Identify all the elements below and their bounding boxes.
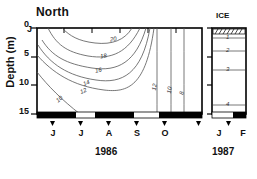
main-panel-frame (37, 28, 202, 114)
month-label-jan: J (212, 128, 226, 138)
contour-label-ice-1: 1 (226, 34, 229, 40)
depth-tick-label-15: 15 (13, 106, 29, 116)
month-label-jun: J (46, 128, 60, 138)
contour-label-ice-4: 4 (226, 101, 229, 107)
year-label-1987: 1987 (212, 146, 234, 157)
contour-label-ice-3: 3 (226, 66, 229, 72)
month-label-aug: A (102, 128, 116, 138)
month-arrow-markers-1986 (50, 121, 201, 126)
depth-axis-ticks (31, 28, 37, 114)
month-label-jul: J (74, 128, 88, 138)
month-label-sep: S (130, 128, 144, 138)
contour-label-12-right: 12 (151, 83, 158, 91)
sampling-bar-1986 (37, 112, 202, 118)
month-label-feb: F (236, 128, 250, 138)
temperature-depth-contour-figure: North Depth (m) J ICE (0, 0, 257, 179)
depth-tick-label-5: 5 (13, 48, 29, 58)
year-label-1986: 1986 (95, 146, 117, 157)
depth-tick-label-0: 0 (13, 19, 29, 29)
contour-label-18: 18 (100, 52, 108, 59)
contour-label-10-right: 10 (166, 86, 173, 94)
month-arrow-markers-1987 (226, 121, 231, 126)
contour-label-20: 20 (110, 36, 117, 43)
depth-tick-label-10: 10 (13, 77, 29, 87)
contour-label-ice-2: 2 (226, 47, 229, 53)
sampling-bar-1987 (212, 112, 246, 118)
month-label-oct: O (158, 128, 172, 138)
